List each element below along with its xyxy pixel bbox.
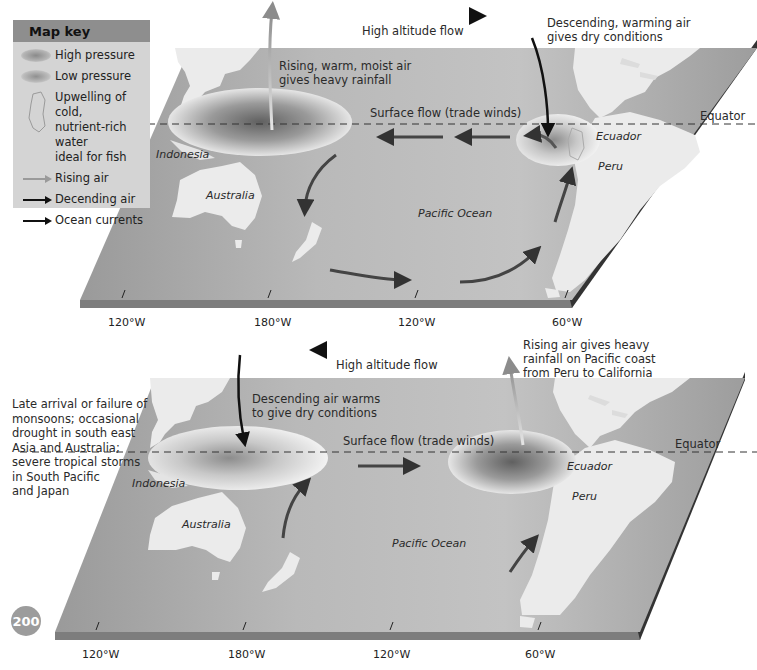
- bottom-peru-label: Peru: [572, 490, 597, 504]
- top-high-altitude-flow-label: High altitude flow: [362, 24, 464, 38]
- bottom-longitude-60w: 60°W: [525, 648, 555, 661]
- top-longitude-120w-right: 120°W: [398, 316, 435, 329]
- top-peru-label: Peru: [598, 160, 623, 174]
- low-pressure-icon: [19, 69, 55, 84]
- key-item-high-pressure: High pressure: [13, 48, 150, 63]
- top-ecuador-label: Ecuador: [596, 130, 641, 144]
- bottom-ecuador-label: Ecuador: [567, 460, 612, 474]
- top-descending-air-label: Descending, warming air gives dry condit…: [547, 16, 691, 44]
- top-pacific-label: Pacific Ocean: [418, 207, 492, 221]
- bottom-indonesia-label: Indonesia: [132, 477, 185, 491]
- top-longitude-60w: 60°W: [552, 316, 582, 329]
- bottom-side-note: Late arrival or failure of monsoons; occ…: [12, 397, 147, 499]
- high-pressure-icon: [19, 48, 55, 63]
- key-item-low-pressure: Low pressure: [13, 69, 150, 84]
- top-australia-label: Australia: [206, 189, 255, 203]
- key-item-upwelling: Upwelling of cold, nutrient-rich water i…: [13, 90, 150, 165]
- top-surface-flow-label: Surface flow (trade winds): [370, 106, 521, 120]
- black-arrow-icon: [19, 213, 55, 228]
- top-indonesia-label: Indonesia: [156, 148, 209, 162]
- bottom-surface-flow-label: Surface flow (trade winds): [343, 434, 494, 448]
- bottom-high-altitude-flow-label: High altitude flow: [336, 358, 438, 372]
- bottom-rising-air-label: Rising air gives heavy rainfall on Pacif…: [523, 338, 656, 380]
- bottom-longitude-120w-right: 120°W: [373, 648, 410, 661]
- key-item-descending-air: Decending air: [13, 192, 150, 207]
- grey-arrow-icon: [19, 171, 55, 186]
- top-equator-label: Equator: [700, 109, 745, 123]
- top-rising-air-label: Rising, warm, moist air gives heavy rain…: [279, 59, 411, 87]
- bottom-pacific-label: Pacific Ocean: [392, 537, 466, 551]
- map-key-title: Map key: [13, 20, 150, 42]
- key-item-rising-air: Rising air: [13, 171, 150, 186]
- bottom-equator-label: Equator: [675, 437, 720, 451]
- bottom-longitude-120w-left: 120°W: [82, 648, 119, 661]
- top-longitude-120w-left: 120°W: [108, 316, 145, 329]
- bottom-longitude-180w: 180°W: [228, 648, 265, 661]
- top-longitude-180w: 180°W: [254, 316, 291, 329]
- upwelling-icon: [19, 90, 55, 135]
- black-arrow-icon: [19, 192, 55, 207]
- bottom-australia-label: Australia: [182, 518, 231, 532]
- map-key: Map key High pressure Low pressure Upwel…: [13, 20, 150, 208]
- page-number-badge: 200: [11, 606, 41, 636]
- key-item-ocean-currents: Ocean currents: [13, 213, 150, 228]
- bottom-descending-air-label: Descending air warms to give dry conditi…: [252, 392, 380, 420]
